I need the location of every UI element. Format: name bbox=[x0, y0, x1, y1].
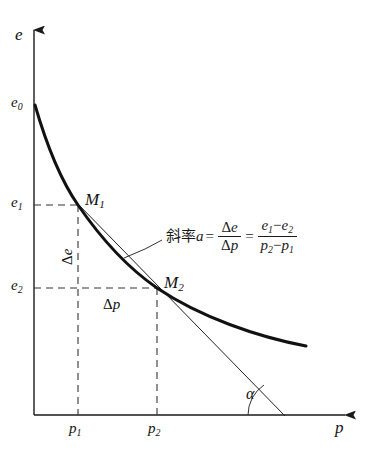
angle-label-alpha: α bbox=[246, 386, 254, 402]
point-label-M2: M2 bbox=[164, 274, 184, 293]
figure-canvas: e p e0 e1 e2 p1 p2 M1 M2 Δe Δp α 斜率a= Δe bbox=[0, 0, 366, 451]
delta-p-symbol: Δ bbox=[103, 296, 113, 312]
y-tick-e0: e0 bbox=[11, 95, 23, 112]
point-label-M1-sub: 1 bbox=[99, 198, 105, 210]
y-tick-e1: e1 bbox=[11, 195, 23, 212]
delta-e-label: Δe bbox=[60, 249, 75, 265]
x-tick-p2: p2 bbox=[148, 421, 160, 438]
den-b-sub: 1 bbox=[289, 243, 294, 254]
den-op: − bbox=[273, 237, 281, 253]
x-tick-p2-sub: 2 bbox=[156, 427, 161, 438]
delta-symbol-num: Δ bbox=[221, 219, 231, 235]
delta-var-den: p bbox=[231, 237, 239, 253]
point-label-M1: M1 bbox=[85, 191, 105, 210]
x-tick-p1: p1 bbox=[69, 421, 81, 438]
slope-fraction-values-denominator: p2−p1 bbox=[258, 237, 297, 255]
point-label-M2-sub: 2 bbox=[178, 281, 184, 293]
num-b-sub: 2 bbox=[288, 224, 293, 235]
slope-fraction-values-numerator: e1−e2 bbox=[258, 218, 296, 236]
slope-formula-prefix: 斜率 bbox=[166, 229, 196, 244]
slope-formula: 斜率a= Δe Δp = e1−e2 p2−p1 bbox=[166, 218, 299, 254]
y-tick-e2: e2 bbox=[11, 278, 23, 295]
x-tick-p1-base: p bbox=[69, 420, 77, 436]
x-tick-p1-sub: 1 bbox=[77, 427, 82, 438]
slope-formula-equals-2: = bbox=[245, 229, 253, 244]
x-tick-p2-base: p bbox=[148, 420, 156, 436]
slope-formula-equals-1: = bbox=[206, 229, 214, 244]
delta-p-label: Δp bbox=[103, 297, 120, 312]
num-op: − bbox=[273, 217, 281, 233]
slope-fraction-values: e1−e2 p2−p1 bbox=[258, 218, 297, 254]
y-tick-e2-sub: 2 bbox=[18, 284, 23, 295]
den-b: p bbox=[282, 237, 290, 253]
delta-e-variable: e bbox=[59, 249, 75, 256]
y-tick-e0-sub: 0 bbox=[18, 101, 23, 112]
formula-leader-line bbox=[124, 240, 162, 258]
point-label-M2-base: M bbox=[164, 273, 178, 292]
y-tick-e2-base: e bbox=[11, 277, 18, 293]
delta-p-variable: p bbox=[113, 296, 121, 312]
y-tick-e1-sub: 1 bbox=[18, 201, 23, 212]
x-axis-label: p bbox=[335, 419, 344, 436]
den-a: p bbox=[261, 237, 269, 253]
y-tick-e0-base: e bbox=[11, 94, 18, 110]
slope-fraction-delta-numerator: Δe bbox=[218, 220, 240, 236]
slope-fraction-delta-denominator: Δp bbox=[218, 237, 241, 253]
delta-symbol-den: Δ bbox=[221, 237, 231, 253]
delta-var-num: e bbox=[231, 219, 238, 235]
point-label-M1-base: M bbox=[85, 190, 99, 209]
delta-e-symbol: Δ bbox=[59, 255, 75, 265]
slope-formula-variable: a bbox=[196, 229, 204, 244]
y-tick-e1-base: e bbox=[11, 194, 18, 210]
y-axis-label: e bbox=[15, 26, 23, 43]
slope-fraction-delta: Δe Δp bbox=[218, 220, 241, 253]
